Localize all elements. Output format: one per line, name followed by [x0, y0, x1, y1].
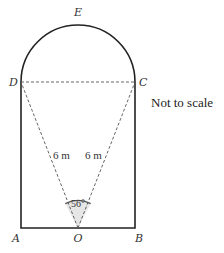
label-A: A [11, 232, 20, 245]
angle-label: 56° [71, 198, 85, 209]
geometry-diagram: E D C A O B 6 m 6 m 56° Not to scale [0, 0, 224, 253]
label-B: B [134, 232, 143, 245]
not-to-scale-note: Not to scale [151, 95, 213, 110]
label-E: E [73, 6, 82, 19]
label-C: C [139, 76, 148, 89]
length-OD: 6 m [53, 149, 70, 161]
label-O: O [73, 232, 82, 245]
label-D: D [8, 76, 18, 89]
length-OC: 6 m [85, 149, 102, 161]
